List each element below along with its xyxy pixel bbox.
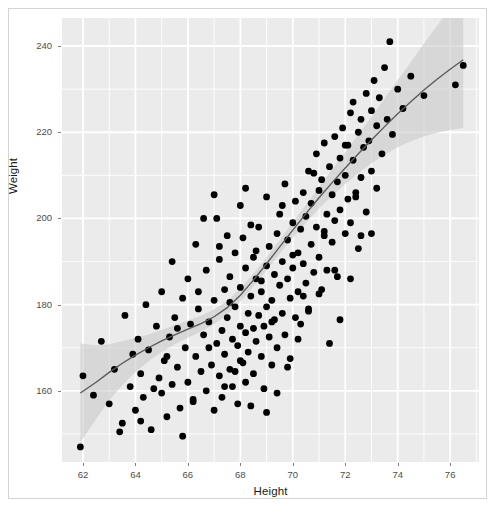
x-tick-mark: [345, 463, 346, 466]
x-tick-label: 70: [273, 470, 313, 480]
x-tick-mark: [293, 463, 294, 466]
x-tick-label: 62: [63, 470, 103, 480]
x-tick-label: 72: [325, 470, 365, 480]
plot-panel: [62, 18, 479, 462]
confidence-ribbon: [80, 18, 463, 443]
x-tick-mark: [83, 463, 84, 466]
x-tick-mark: [188, 463, 189, 466]
ggplot-scatter-chart: Weight Height 160180200220240 6264666870…: [0, 0, 496, 515]
x-tick-label: 66: [168, 470, 208, 480]
x-tick-label: 74: [378, 470, 418, 480]
x-tick-mark: [450, 463, 451, 466]
x-tick-mark: [240, 463, 241, 466]
x-tick-label: 68: [220, 470, 260, 480]
x-tick-mark: [135, 463, 136, 466]
x-tick-label: 64: [115, 470, 155, 480]
plot-canvas: [62, 18, 479, 462]
x-tick-mark: [398, 463, 399, 466]
x-tick-label: 76: [430, 470, 470, 480]
